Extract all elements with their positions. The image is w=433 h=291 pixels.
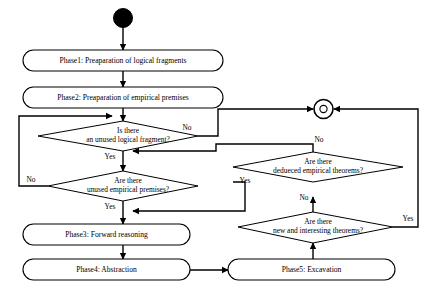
node-phase4-label: Phase4: Abstraction xyxy=(76,265,137,274)
node-phase2[interactable]: Phase2: Preaparation of empirical premis… xyxy=(23,87,223,108)
node-phase3[interactable]: Phase3: Forward reasoning xyxy=(23,224,190,245)
end-node xyxy=(314,100,333,119)
edge-label-empirical-premises-no: No xyxy=(26,175,35,184)
node-phase1[interactable]: Phase1: Preaparation of logical fragment… xyxy=(23,50,223,71)
edge-label-new-theorems-yes: Yes xyxy=(403,214,414,223)
node-phase3-label: Phase3: Forward reasoning xyxy=(65,230,148,239)
decision-new-theorems-line1: Are there xyxy=(304,217,332,226)
decision-logical-fragment-line1: Is there xyxy=(117,126,140,135)
decision-empirical-premises-line1: Are there xyxy=(114,176,142,185)
node-phase1-label: Phase1: Preaparation of logical fragment… xyxy=(60,56,187,65)
start-node xyxy=(114,9,133,28)
decision-deduced-theorems-line1: Are there xyxy=(304,157,332,166)
edge-label-logical-fragment-yes: Yes xyxy=(105,152,116,161)
decision-empirical-premises[interactable]: Are there unused empirical premises? xyxy=(48,171,198,201)
edge-label-deduced-theorems-yes: Yes xyxy=(240,176,251,185)
flowchart-diagram: Phase1: Preaparation of logical fragment… xyxy=(0,0,433,291)
edge-label-new-theorems-no: No xyxy=(299,193,308,202)
decision-deduced-theorems-line2: dedueced empirical theorems? xyxy=(273,166,363,175)
node-phase5-label: Phase5: Excavation xyxy=(282,265,342,274)
decision-empirical-premises-line2: unused empirical premises? xyxy=(87,185,169,194)
edge-logical-fragment-no-to-end xyxy=(198,109,313,136)
edge-label-logical-fragment-no: No xyxy=(182,123,191,132)
edge-label-empirical-premises-yes: Yes xyxy=(105,202,116,211)
decision-logical-fragment-line2: an unused logical fragment? xyxy=(86,135,170,144)
flowchart-canvas: Phase1: Preaparation of logical fragment… xyxy=(0,0,433,291)
node-phase5[interactable]: Phase5: Excavation xyxy=(228,259,395,280)
decision-logical-fragment[interactable]: Is there an unused logical fragment? xyxy=(38,121,198,151)
node-phase4[interactable]: Phase4: Abstraction xyxy=(23,259,190,280)
decision-deduced-theorems[interactable]: Are there dedueced empirical theorems? xyxy=(233,152,403,182)
decision-new-theorems-line2: new and interesting theorems? xyxy=(273,226,363,235)
decision-new-theorems[interactable]: Are there new and interesting theorems? xyxy=(238,212,393,243)
edge-label-deduced-theorems-no: No xyxy=(314,135,323,144)
node-phase2-label: Phase2: Preaparation of empirical premis… xyxy=(57,93,189,102)
